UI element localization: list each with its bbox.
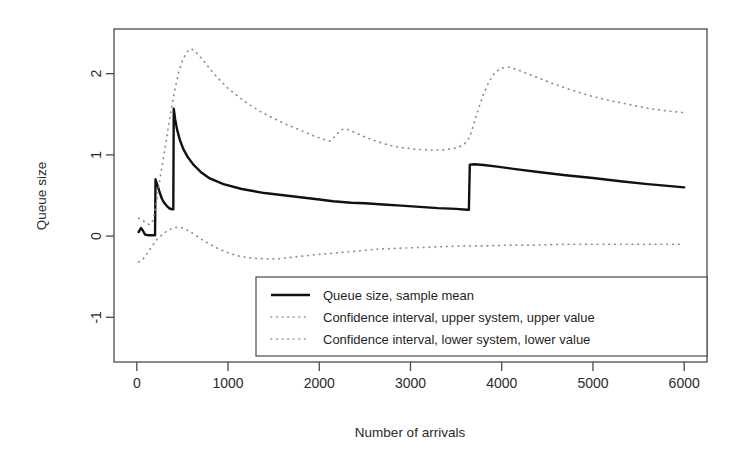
x-tick-label: 5000: [577, 375, 608, 391]
y-tick-label: -1: [88, 311, 104, 324]
chart-figure: -1012 0100020003000400050006000 Queue si…: [0, 0, 744, 471]
x-tick-label: 2000: [304, 375, 335, 391]
x-tick-label: 1000: [212, 375, 243, 391]
chart-legend: Queue size, sample mean Confidence inter…: [256, 277, 707, 356]
y-axis-title: Queue size: [34, 162, 49, 230]
x-tick-label: 6000: [669, 375, 700, 391]
x-axis-title: Number of arrivals: [355, 425, 466, 440]
y-tick-label: 1: [88, 151, 104, 159]
legend-label-upper-ci: Confidence interval, upper system, upper…: [323, 310, 595, 325]
y-tick-label: 0: [88, 232, 104, 240]
x-tick-label: 3000: [395, 375, 426, 391]
x-tick-label: 0: [133, 375, 141, 391]
x-tick-label: 4000: [486, 375, 517, 391]
legend-label-lower-ci: Confidence interval, lower system, lower…: [323, 332, 590, 347]
legend-label-mean: Queue size, sample mean: [323, 288, 474, 303]
y-tick-label: 2: [88, 70, 104, 78]
queue-size-line-chart: -1012 0100020003000400050006000 Queue si…: [0, 0, 744, 471]
